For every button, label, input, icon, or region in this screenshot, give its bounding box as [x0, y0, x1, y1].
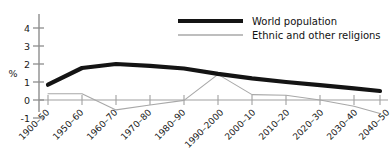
x-tick-label-4: 1980–90 [153, 107, 188, 142]
legend-label-world-population: World population [252, 16, 337, 27]
y-tick-label-2: 2 [24, 59, 30, 70]
x-tick-label-2: 1960–70 [85, 107, 120, 142]
y-tick-label-1: 1 [24, 77, 30, 88]
chart-legend: World population Ethnic and other religi… [178, 16, 381, 41]
series-line-ethnic-and-other-religions [48, 74, 380, 113]
line-chart: 4 3 2 1 0 -1 % World population [0, 0, 392, 154]
x-tick-label-6: 2000–10 [223, 107, 258, 142]
x-tick-label-5: 1990–2000 [183, 107, 226, 150]
legend-label-ethnic-and-other-religions: Ethnic and other religions [252, 30, 381, 41]
y-tick-label-3: 3 [24, 41, 30, 52]
x-tick-label-7: 2010–20 [257, 107, 292, 142]
y-axis-unit-label: % [8, 68, 17, 79]
x-tick-label-8: 2020–30 [291, 107, 326, 142]
x-tick-label-1: 1950–60 [51, 107, 86, 142]
x-tick-label-9: 2030–40 [325, 107, 360, 142]
y-tick-label-4: 4 [24, 23, 30, 34]
chart-container: 4 3 2 1 0 -1 % World population [0, 0, 392, 154]
y-tick-label-0: 0 [24, 95, 30, 106]
x-axis-tick-labels: 1900–50 1950–60 1960–70 1970–80 1980–90 … [17, 107, 392, 150]
x-tick-label-3: 1970–80 [119, 107, 154, 142]
